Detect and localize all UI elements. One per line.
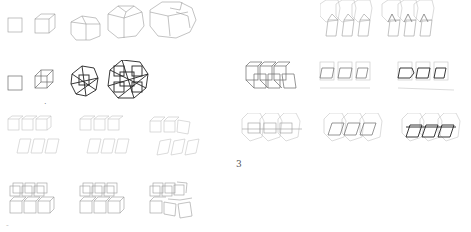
slanted-cube-arrays-svg	[0, 115, 230, 165]
row3-figure	[0, 115, 230, 165]
wireframe-cube-arrays-svg	[0, 180, 230, 232]
right-top-figure	[320, 0, 471, 42]
small-mark-label: ·	[44, 100, 47, 108]
hex-prism-rows-svg	[320, 0, 471, 42]
hex-overlay-parallelograms-svg	[240, 113, 471, 158]
skewed-cube-rows-svg	[240, 60, 471, 105]
cube-growth-wireframe-svg	[0, 60, 160, 110]
right-mid-figure	[240, 60, 471, 105]
right-bottom-figure	[240, 113, 471, 158]
row4-figure: -	[0, 180, 230, 232]
corner-mark-label: -	[6, 222, 9, 230]
panel-number-label: 3	[236, 160, 242, 169]
row2-figure: ·	[0, 60, 160, 110]
row1-figure	[0, 0, 230, 50]
cube-growth-outline-svg	[0, 0, 230, 50]
